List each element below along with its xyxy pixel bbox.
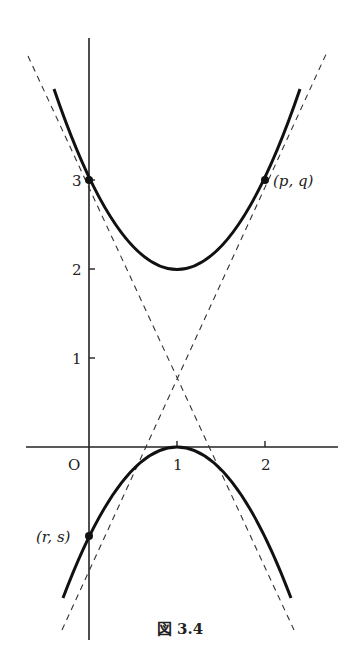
tick-marks: [89, 180, 265, 447]
tangent-line-2: [62, 50, 328, 630]
figure-caption: 図 3.4: [157, 620, 203, 638]
origin-label: O: [68, 456, 80, 474]
x-tick-label-1: 1: [173, 456, 183, 474]
point-rs: [85, 532, 93, 540]
point-pq: [261, 176, 269, 184]
diagram-canvas: 3 2 1 O 1 2 (p, q) (r, s) 図 3.4: [0, 0, 361, 659]
point-rs-label: (r, s): [36, 528, 71, 546]
y-tick-label-3: 3: [72, 172, 82, 190]
x-tick-label-2: 2: [261, 456, 271, 474]
y-tick-label-2: 2: [72, 261, 82, 279]
point-pq-label: (p, q): [273, 172, 314, 190]
point-0-3: [85, 176, 93, 184]
y-tick-label-1: 1: [72, 350, 82, 368]
